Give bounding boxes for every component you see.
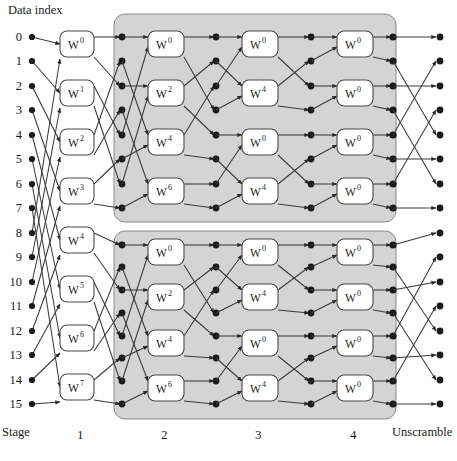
svg-text:W: W <box>250 88 261 100</box>
svg-text:4: 4 <box>168 134 172 143</box>
svg-text:W: W <box>156 292 167 304</box>
twiddle-box-s3l-2: W0 <box>242 330 278 356</box>
svg-text:0: 0 <box>357 134 361 143</box>
svg-text:W: W <box>156 39 167 51</box>
svg-text:W: W <box>68 137 79 149</box>
twiddle-box-s2u-3: W6 <box>148 178 184 204</box>
twiddle-box-s4l-1: W0 <box>337 284 373 310</box>
svg-text:2: 2 <box>80 134 84 143</box>
svg-text:W: W <box>345 88 356 100</box>
svg-text:W: W <box>250 383 261 395</box>
twiddle-box-s4l-2: W0 <box>337 330 373 356</box>
twiddle-box-s4l-3: W0 <box>337 375 373 401</box>
svg-text:6: 6 <box>168 183 172 192</box>
svg-text:4: 4 <box>262 380 266 389</box>
svg-text:0: 0 <box>357 289 361 298</box>
svg-text:W: W <box>345 186 356 198</box>
twiddle-box-s2l-2: W4 <box>148 330 184 356</box>
twiddle-box-s3l-1: W4 <box>242 284 278 310</box>
svg-text:2: 2 <box>168 85 172 94</box>
svg-text:2: 2 <box>168 289 172 298</box>
svg-text:W: W <box>156 186 167 198</box>
output-nodes <box>437 34 444 408</box>
twiddle-box-s1-4: W4 <box>60 227 94 253</box>
twiddle-box-s3u-0: W0 <box>242 31 278 57</box>
svg-text:W: W <box>156 383 167 395</box>
svg-text:0: 0 <box>168 36 172 45</box>
svg-text:0: 0 <box>262 36 266 45</box>
svg-text:0: 0 <box>357 183 361 192</box>
svg-text:W: W <box>250 39 261 51</box>
twiddle-box-s2l-0: W0 <box>148 239 184 265</box>
twiddle-box-s1-1: W1 <box>60 80 94 106</box>
stage-1-edges <box>32 37 60 404</box>
unscramble-edges <box>393 37 436 404</box>
svg-text:W: W <box>345 137 356 149</box>
twiddle-box-s2l-3: W6 <box>148 375 184 401</box>
svg-text:W: W <box>68 333 79 345</box>
svg-text:4: 4 <box>80 232 84 241</box>
svg-text:3: 3 <box>80 183 84 192</box>
twiddle-box-s1-2: W2 <box>60 129 94 155</box>
svg-text:W: W <box>68 186 79 198</box>
svg-text:W: W <box>250 338 261 350</box>
svg-text:0: 0 <box>262 134 266 143</box>
twiddle-box-s1-3: W3 <box>60 178 94 204</box>
stage-1-twiddle-boxes: W0 W1 W2 W3 W4 W5 W6 W7 <box>60 31 94 400</box>
twiddle-box-s3l-3: W4 <box>242 375 278 401</box>
svg-text:W: W <box>250 247 261 259</box>
svg-text:6: 6 <box>80 330 84 339</box>
svg-text:0: 0 <box>80 36 84 45</box>
svg-text:0: 0 <box>357 36 361 45</box>
twiddle-box-s4u-1: W0 <box>337 80 373 106</box>
twiddle-box-s3l-0: W0 <box>242 239 278 265</box>
svg-text:0: 0 <box>262 335 266 344</box>
svg-text:W: W <box>345 292 356 304</box>
svg-text:0: 0 <box>357 380 361 389</box>
twiddle-box-s1-7: W7 <box>60 374 94 400</box>
fft-flow-diagram: Data index 0 1 2 3 4 5 6 7 8 9 10 11 12 … <box>0 0 457 461</box>
svg-text:4: 4 <box>262 183 266 192</box>
twiddle-box-s4u-2: W0 <box>337 129 373 155</box>
twiddle-box-s1-5: W5 <box>60 276 94 302</box>
svg-text:7: 7 <box>80 379 84 388</box>
svg-text:W: W <box>156 338 167 350</box>
svg-text:4: 4 <box>262 289 266 298</box>
svg-text:W: W <box>250 186 261 198</box>
svg-text:4: 4 <box>262 85 266 94</box>
twiddle-box-s1-6: W6 <box>60 325 94 351</box>
twiddle-box-s4u-3: W0 <box>337 178 373 204</box>
twiddle-box-s2u-2: W4 <box>148 129 184 155</box>
svg-text:0: 0 <box>168 244 172 253</box>
svg-text:W: W <box>345 39 356 51</box>
svg-text:W: W <box>156 88 167 100</box>
twiddle-box-s4l-0: W0 <box>337 239 373 265</box>
svg-text:W: W <box>156 247 167 259</box>
twiddle-box-s3u-3: W4 <box>242 178 278 204</box>
svg-text:W: W <box>68 382 79 394</box>
svg-text:W: W <box>250 292 261 304</box>
svg-text:0: 0 <box>357 85 361 94</box>
svg-text:W: W <box>345 338 356 350</box>
svg-text:0: 0 <box>262 244 266 253</box>
twiddle-box-s3u-1: W4 <box>242 80 278 106</box>
svg-text:W: W <box>68 88 79 100</box>
twiddle-box-s1-0: W0 <box>60 31 94 57</box>
svg-text:W: W <box>345 383 356 395</box>
twiddle-box-s4u-0: W0 <box>337 31 373 57</box>
twiddle-box-s3u-2: W0 <box>242 129 278 155</box>
svg-text:0: 0 <box>357 244 361 253</box>
svg-text:W: W <box>345 247 356 259</box>
svg-text:W: W <box>156 137 167 149</box>
twiddle-box-s2l-1: W2 <box>148 284 184 310</box>
svg-text:W: W <box>68 39 79 51</box>
svg-text:W: W <box>68 235 79 247</box>
svg-text:4: 4 <box>168 335 172 344</box>
svg-text:W: W <box>68 284 79 296</box>
svg-text:5: 5 <box>80 281 84 290</box>
flow-graph-svg: .ln{stroke:#3a3a3a;stroke-width:1.05;fil… <box>0 0 457 461</box>
twiddle-box-s2u-1: W2 <box>148 80 184 106</box>
svg-text:0: 0 <box>357 335 361 344</box>
twiddle-box-s2u-0: W0 <box>148 31 184 57</box>
svg-text:6: 6 <box>168 380 172 389</box>
